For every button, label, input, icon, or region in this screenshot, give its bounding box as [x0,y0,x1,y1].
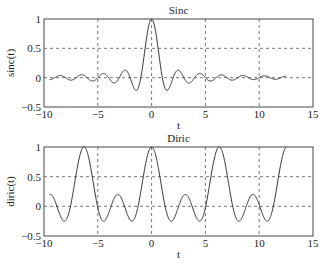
y-tick-label: 1 [36,13,42,25]
y-tick-label: 0 [36,200,42,212]
axes-frame [44,147,313,236]
chart-title: Diric [167,132,190,144]
x-tick-label: 10 [254,108,266,120]
x-tick-label: 15 [308,108,320,120]
data-line [49,19,286,90]
y-tick-label: 0 [36,72,42,84]
y-tick-label: 0.5 [27,42,41,54]
x-tick-label: 15 [308,237,320,249]
y-tick-label: −0.5 [21,101,41,113]
chart-title: Sinc [169,4,189,16]
x-axis-label: t [177,119,180,131]
x-tick-label: −5 [92,237,104,249]
x-tick-label: 5 [203,237,209,249]
subplot-sinc: −10−5051015−0.500.51Sinctsinc(t) [4,4,319,131]
y-axis-label: sinc(t) [4,49,17,77]
axes-frame [44,19,313,107]
y-tick-label: 1 [36,141,42,153]
x-tick-label: 10 [254,237,266,249]
x-tick-label: 0 [149,237,155,249]
figure: −10−5051015−0.500.51Sinctsinc(t)−10−5051… [0,0,328,272]
x-axis-label: t [177,248,180,260]
data-line [49,147,286,221]
subplot-diric: −10−5051015−0.500.51Dirictdiric(t) [4,132,319,260]
y-tick-label: 0.5 [27,171,41,183]
x-tick-label: −5 [92,108,104,120]
y-axis-label: diric(t) [4,176,17,207]
x-tick-label: 0 [149,108,155,120]
y-tick-label: −0.5 [21,230,41,242]
x-tick-label: 5 [203,108,209,120]
